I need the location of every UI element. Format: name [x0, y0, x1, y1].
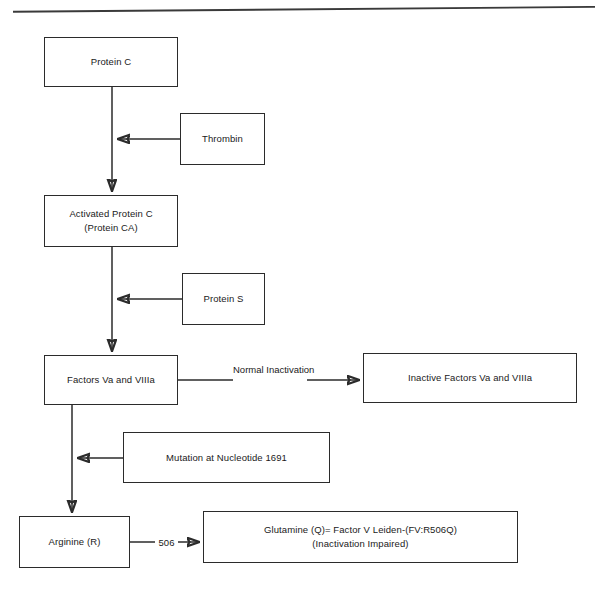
node-activated-protein-c: Activated Protein C (Protein CA): [44, 195, 178, 247]
figure-canvas: Protein C Thrombin Activated Protein C (…: [0, 0, 606, 607]
node-thrombin-line-1: Thrombin: [202, 132, 243, 146]
node-factors-va-viiia-line-1: Factors Va and VIIIa: [67, 373, 155, 387]
node-arginine-line-1: Arginine (R): [49, 535, 101, 549]
edge-label-residue-506: 506: [155, 535, 178, 550]
edge-label-normal-inactivation-line-2: Inactivation: [266, 364, 314, 375]
node-activated-protein-c-line-1: Activated Protein C: [69, 207, 152, 221]
node-glutamine-line-2: (Inactivation Impaired): [264, 537, 457, 551]
edge-label-residue-506-line-1: 506: [159, 537, 175, 548]
node-factors-va-viiia: Factors Va and VIIIa: [44, 355, 178, 405]
node-activated-protein-c-line-2: (Protein CA): [69, 221, 152, 235]
node-mutation-line-1: Mutation at Nucleotide 1691: [166, 451, 287, 465]
node-protein-c: Protein C: [44, 37, 178, 87]
node-inactive-factors-line-1: Inactive Factors Va and VIIIa: [408, 371, 532, 385]
node-protein-s: Protein S: [182, 273, 265, 325]
node-protein-c-line-1: Protein C: [91, 55, 132, 69]
top-horizontal-rule: [13, 6, 595, 13]
node-protein-s-line-1: Protein S: [204, 292, 244, 306]
edge-label-normal-inactivation: Normal Inactivation: [233, 362, 307, 377]
edge-label-normal-inactivation-line-1: Normal: [233, 364, 264, 375]
node-thrombin: Thrombin: [180, 113, 265, 165]
node-glutamine-line-1: Glutamine (Q)= Factor V Leiden-(FV:R506Q…: [264, 523, 457, 537]
node-arginine: Arginine (R): [19, 516, 130, 568]
node-inactive-factors: Inactive Factors Va and VIIIa: [363, 353, 577, 403]
node-glutamine: Glutamine (Q)= Factor V Leiden-(FV:R506Q…: [203, 511, 518, 563]
node-mutation: Mutation at Nucleotide 1691: [123, 432, 330, 483]
